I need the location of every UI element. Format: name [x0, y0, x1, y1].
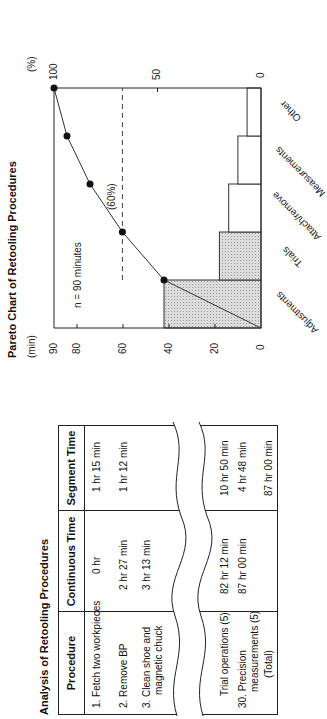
cell-continuous: 87 hr 00 min: [237, 538, 249, 594]
cell-continuous: 3 hr 13 min: [141, 540, 153, 590]
cell-procedure: 3. Clean shoe and: [141, 627, 153, 708]
header-continuous-time: Continuous Time: [59, 511, 84, 612]
y-tick-0: 0: [255, 344, 266, 350]
header-procedure: Procedure: [59, 612, 84, 714]
cell-continuous: 82 hr 12 min: [219, 538, 231, 594]
sixty-percent-note: (60%): [106, 183, 117, 210]
y2-tick-0: 0: [255, 72, 266, 78]
cell-segment: 1 hr 12 min: [118, 442, 130, 492]
cell-procedure: measurements (5): [249, 611, 261, 692]
y-tick-80: 80: [71, 343, 82, 354]
cell-continuous: 2 hr 27 min: [118, 540, 130, 590]
header-segment-time: Segment Time: [59, 425, 84, 511]
cell-procedure: 2. Remove BP: [118, 644, 130, 708]
y-tick-20: 20: [209, 343, 220, 354]
cell-procedure-total: (Total): [263, 650, 275, 678]
cell-procedure: 1. Fetch two workpieces: [91, 601, 103, 708]
table-title: Analysis of Retooling Procedures: [38, 539, 50, 715]
cell-continuous: 0 hr: [91, 557, 103, 574]
y2-tick-100: 100: [48, 63, 59, 80]
cell-segment-total: 87 hr 00 min: [263, 440, 275, 496]
cell-procedure: 30. Precision: [237, 650, 249, 708]
cell-segment: 1 hr 15 min: [91, 442, 103, 492]
y-tick-60: 60: [117, 343, 128, 354]
retooling-table: Procedure Continuous Time Segment Time 1…: [58, 425, 278, 715]
chart-plot: [0, 0, 324, 360]
cell-procedure: Trial operations (5): [219, 612, 231, 696]
sample-size-note: n = 90 minutes: [72, 242, 83, 308]
y-tick-40: 40: [163, 343, 174, 354]
header-row: Procedure Continuous Time Segment Time: [59, 426, 85, 714]
pareto-chart: Pareto Chart of Retooling Procedures (mi…: [0, 0, 324, 360]
y-tick-90: 90: [48, 343, 59, 354]
cell-segment: 4 hr 48 min: [237, 442, 249, 492]
y2-tick-50: 50: [151, 69, 162, 80]
cell-segment: 10 hr 50 min: [219, 440, 231, 496]
